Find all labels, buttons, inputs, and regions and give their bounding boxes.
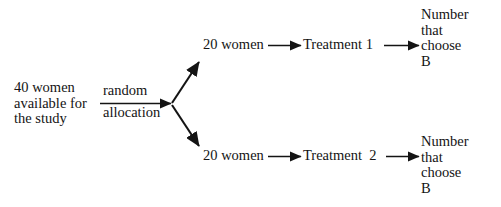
branch-up-arrow (172, 62, 199, 103)
allocation-label-top: random (103, 83, 147, 99)
group-2-label: 20 women (203, 148, 264, 164)
randomisation-flow-diagram: 40 women available for the study random … (0, 0, 501, 207)
outcome-1-label: Number that choose B (421, 7, 469, 69)
treatment-1-label: Treatment 1 (303, 37, 373, 53)
source-population-label: 40 women available for the study (14, 80, 87, 127)
outcome-2-label: Number that choose B (421, 134, 469, 196)
treatment-2-label: Treatment 2 (303, 148, 377, 164)
allocation-label-bottom: allocation (103, 105, 160, 121)
branch-down-arrow (172, 105, 199, 146)
group-1-label: 20 women (203, 37, 264, 53)
